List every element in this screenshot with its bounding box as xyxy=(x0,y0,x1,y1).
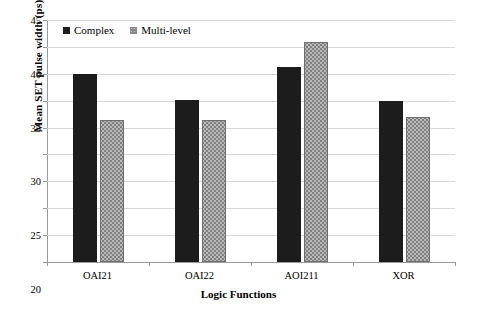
x-axis-tick-label: OAI22 xyxy=(185,270,214,281)
y-axis-tick-label: 30 xyxy=(31,176,42,187)
x-axis-tick-mark xyxy=(47,262,48,266)
legend-label-complex: Complex xyxy=(74,24,114,36)
y-axis-tick-label: 35 xyxy=(31,122,42,133)
bar-complex xyxy=(73,74,97,262)
x-axis-tick-mark xyxy=(455,262,456,266)
bar-group xyxy=(379,20,430,262)
x-axis-tick-label: AOI211 xyxy=(284,270,318,281)
bar-series-container xyxy=(47,20,455,262)
bar-multi-level xyxy=(202,120,226,262)
bar-complex xyxy=(175,100,199,262)
bar-multi-level xyxy=(100,120,124,262)
y-axis-tick-label: 25 xyxy=(31,230,42,241)
x-axis-tick-mark xyxy=(149,262,150,266)
bar-complex xyxy=(379,101,403,262)
bar-chart: Mean SET pulse width (ps) 05101520253035… xyxy=(0,0,477,315)
plot-area: 051015202530354045 xyxy=(47,20,455,262)
x-axis-title: Logic Functions xyxy=(0,288,477,300)
y-axis-tick-label: 40 xyxy=(31,68,42,79)
legend-swatch-multi-level-icon xyxy=(130,27,137,34)
x-axis-tick-mark xyxy=(353,262,354,266)
bar-complex xyxy=(277,67,301,262)
bar-group xyxy=(277,20,328,262)
x-axis-tick-mark xyxy=(251,262,252,266)
legend-item-multi-level: Multi-level xyxy=(130,24,191,36)
bar-group xyxy=(73,20,124,262)
bar-multi-level xyxy=(304,42,328,262)
legend-swatch-complex-icon xyxy=(63,27,70,34)
legend-label-multi-level: Multi-level xyxy=(141,24,191,36)
bar-multi-level xyxy=(406,117,430,262)
y-axis-tick-label: 45 xyxy=(31,15,42,26)
x-axis-tick-label: OAI21 xyxy=(83,270,112,281)
bar-group xyxy=(175,20,226,262)
legend-item-complex: Complex xyxy=(63,24,114,36)
legend: Complex Multi-level xyxy=(63,24,191,36)
x-axis-tick-label: XOR xyxy=(392,270,414,281)
